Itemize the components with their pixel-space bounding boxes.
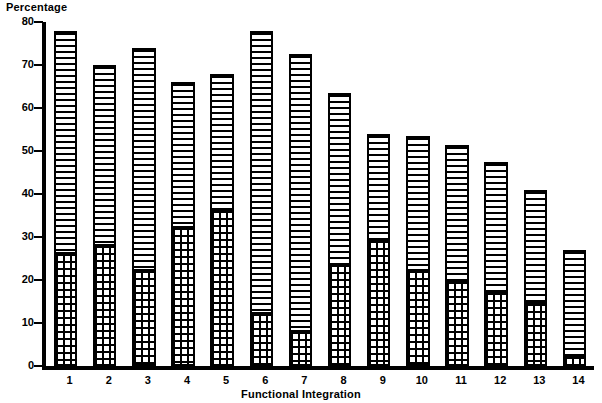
x-axis-title: Functional Integration [0, 388, 602, 400]
bar-segment-upper [289, 54, 312, 331]
y-tick-label: 10 [6, 316, 34, 328]
y-tick-label: 20 [6, 273, 34, 285]
bar-column [289, 54, 312, 366]
bar-column [54, 31, 77, 366]
bar-segment-lower [328, 265, 351, 366]
bar-segment-upper [484, 162, 507, 293]
bar-column [367, 134, 390, 366]
x-tick-label: 14 [572, 374, 584, 386]
bar-column [171, 82, 194, 366]
y-tick-mark [34, 64, 43, 66]
bar-segment-upper [406, 136, 429, 271]
y-axis-title: Percentage [6, 1, 67, 13]
bar-segment-upper [171, 82, 194, 228]
x-tick-label: 6 [262, 374, 268, 386]
bar-column [406, 136, 429, 366]
x-tick-label: 7 [301, 374, 307, 386]
bar-segment-lower [54, 254, 77, 366]
bar-group [46, 22, 594, 366]
bar-segment-lower [367, 241, 390, 366]
y-tick-mark [34, 107, 43, 109]
bar-column [328, 93, 351, 366]
bar-segment-lower [289, 332, 312, 366]
x-tick-label: 2 [106, 374, 112, 386]
x-tick-label: 11 [455, 374, 467, 386]
bar-segment-lower [563, 357, 586, 366]
bar-segment-upper [367, 134, 390, 242]
bar-segment-lower [132, 271, 155, 366]
y-tick-mark [34, 322, 43, 324]
y-tick-mark [34, 279, 43, 281]
x-tick-label: 13 [533, 374, 545, 386]
bar-column [484, 162, 507, 366]
y-tick-mark [34, 193, 43, 195]
y-tick-mark [34, 150, 43, 152]
bar-column [132, 48, 155, 366]
bar-segment-lower [524, 304, 547, 366]
x-axis-line [42, 366, 594, 370]
bar-segment-lower [171, 228, 194, 366]
y-tick-mark [34, 236, 43, 238]
y-tick-label: 80 [6, 15, 34, 27]
plot-area: 01020304050607080 [42, 22, 594, 366]
stacked-bar-chart: Percentage 01020304050607080 12345678910… [0, 0, 602, 403]
bar-segment-lower [93, 246, 116, 366]
bar-column [93, 65, 116, 366]
bar-segment-lower [445, 282, 468, 366]
bar-segment-upper [328, 93, 351, 265]
x-tick-label: 5 [223, 374, 229, 386]
bar-segment-upper [54, 31, 77, 255]
bar-segment-upper [93, 65, 116, 246]
y-tick-label: 60 [6, 101, 34, 113]
bar-segment-lower [406, 271, 429, 366]
bar-column [250, 31, 273, 366]
y-tick-label: 70 [6, 58, 34, 70]
bar-segment-upper [250, 31, 273, 315]
y-tick-mark [34, 365, 43, 367]
bar-segment-upper [445, 145, 468, 283]
x-tick-label: 10 [416, 374, 428, 386]
bar-column [445, 145, 468, 366]
y-tick-label: 30 [6, 230, 34, 242]
y-tick-label: 50 [6, 144, 34, 156]
bar-segment-lower [210, 211, 233, 366]
bar-segment-upper [210, 74, 233, 212]
bar-segment-lower [250, 314, 273, 366]
bar-segment-lower [484, 293, 507, 366]
bar-segment-upper [563, 250, 586, 358]
x-tick-label: 8 [341, 374, 347, 386]
bar-segment-upper [132, 48, 155, 272]
y-tick-mark [34, 21, 43, 23]
x-tick-label: 1 [67, 374, 73, 386]
bar-segment-upper [524, 190, 547, 304]
bar-column [524, 190, 547, 366]
x-tick-label: 9 [380, 374, 386, 386]
x-tick-label: 4 [184, 374, 190, 386]
x-tick-label: 3 [145, 374, 151, 386]
x-tick-label: 12 [494, 374, 506, 386]
bar-column [210, 74, 233, 366]
bar-column [563, 250, 586, 366]
y-tick-label: 40 [6, 187, 34, 199]
y-tick-label: 0 [6, 359, 34, 371]
